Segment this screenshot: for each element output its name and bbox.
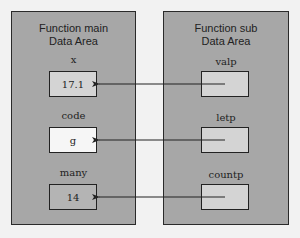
pointer-arrows — [0, 0, 300, 238]
